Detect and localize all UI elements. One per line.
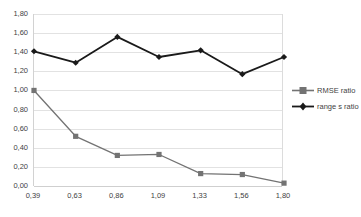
- plot-area: [33, 14, 283, 186]
- chart-legend: RMSE ratio range s ratio: [292, 86, 359, 111]
- data-point-square: [240, 172, 245, 177]
- y-axis-tick-label: 1,80: [2, 10, 28, 18]
- series-layer: [34, 14, 284, 186]
- series-line: [34, 90, 284, 183]
- x-axis-tick-label: 1,56: [224, 192, 258, 200]
- legend-item-range-s-ratio[interactable]: range s ratio: [292, 102, 359, 111]
- x-axis-tick-label: 1,09: [141, 192, 175, 200]
- legend-item-rmse-ratio[interactable]: RMSE ratio: [292, 86, 359, 95]
- x-axis-tick-label: 0,63: [58, 192, 92, 200]
- x-axis-tick-label: 1,80: [266, 192, 300, 200]
- x-axis-tick-label: 0,39: [16, 192, 50, 200]
- y-axis-tick-label: 0,80: [2, 106, 28, 114]
- data-point-square: [73, 134, 78, 139]
- legend-marker-diamond-icon: [292, 102, 314, 111]
- legend-marker-square-icon: [292, 86, 314, 95]
- data-point-diamond: [31, 48, 37, 54]
- data-point-square: [156, 152, 161, 157]
- y-axis-tick-label: 1,00: [2, 86, 28, 94]
- y-axis-tick-label: 0,40: [2, 144, 28, 152]
- data-point-diamond: [281, 54, 287, 60]
- data-point-square: [31, 88, 36, 93]
- y-axis-tick-label: 0,00: [2, 182, 28, 190]
- x-axis-tick-label: 0,86: [99, 192, 133, 200]
- y-axis-tick-label: 1,60: [2, 29, 28, 37]
- gridline: [34, 186, 282, 187]
- data-point-square: [115, 153, 120, 158]
- y-axis-tick-label: 1,20: [2, 67, 28, 75]
- legend-label-range-s-ratio: range s ratio: [317, 103, 359, 111]
- y-axis-tick-label: 0,60: [2, 125, 28, 133]
- data-point-square: [198, 171, 203, 176]
- data-point-diamond: [156, 54, 162, 60]
- legend-label-rmse-ratio: RMSE ratio: [317, 87, 355, 95]
- x-axis-tick-label: 1,33: [183, 192, 217, 200]
- chart-container: 1,801,601,401,201,000,800,600,400,200,00…: [0, 0, 361, 217]
- y-axis-tick-label: 0,20: [2, 163, 28, 171]
- y-axis-tick-label: 1,40: [2, 48, 28, 56]
- data-point-square: [281, 181, 286, 186]
